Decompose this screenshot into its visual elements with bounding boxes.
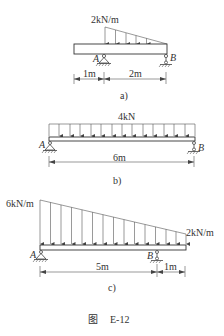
load-label: 4kN	[118, 111, 135, 122]
panel-label: c)	[108, 282, 116, 294]
beam	[74, 44, 167, 54]
panel-label: a)	[120, 90, 128, 102]
caption-id: E-12	[110, 314, 129, 325]
triangular-load	[105, 27, 167, 44]
support-a-label: A	[29, 249, 37, 260]
panel-c: 6kN/m 2kN/m A	[6, 198, 214, 294]
load-label-right: 2kN/m	[186, 227, 214, 238]
caption-prefix: 图	[88, 314, 98, 325]
beam	[49, 137, 195, 141]
load-label-left: 6kN/m	[6, 198, 34, 209]
dimension-label: 1m	[83, 68, 96, 79]
support-b-label: B	[147, 250, 153, 261]
figure-caption: 图 E-12	[88, 314, 129, 325]
support-b-label: B	[170, 52, 176, 63]
figure-canvas: 2kN/m A B 1m 2m a) 4kN	[0, 0, 224, 336]
dimension-label: 6m	[113, 152, 126, 163]
support-b-label: B	[198, 142, 204, 153]
dimension-label: 2m	[129, 68, 142, 79]
dimension-label: 1m	[164, 261, 177, 272]
support-a-label: A	[38, 139, 46, 150]
panel-a: 2kN/m A B 1m 2m a)	[74, 14, 176, 102]
trapezoidal-load	[40, 200, 186, 244]
uniform-load	[49, 124, 195, 136]
dimension-label: 5m	[96, 261, 109, 272]
load-label: 2kN/m	[91, 14, 119, 25]
beam	[40, 245, 186, 250]
panel-label: b)	[113, 175, 121, 187]
support-a-label: A	[92, 53, 100, 64]
panel-b: 4kN A	[38, 111, 204, 187]
